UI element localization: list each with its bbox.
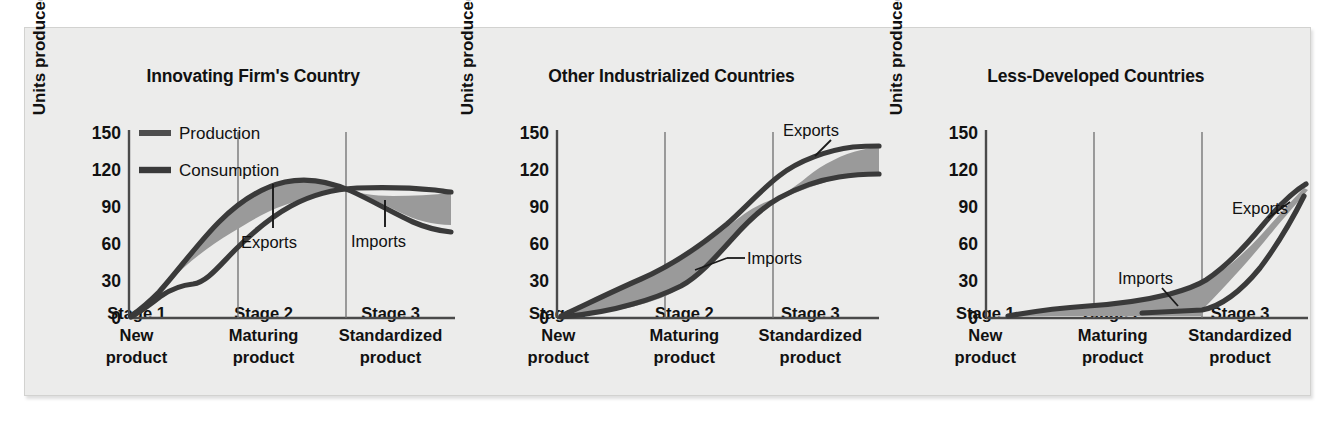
panel-container: Innovating Firm's Country Units produced… — [25, 28, 1310, 395]
ytick-90: 90 — [530, 197, 550, 217]
panel-other-industrialized-countries: Other Industrialized Countries Units pro… — [453, 28, 881, 397]
ytick-30: 30 — [102, 271, 122, 291]
legend: Production Consumption — [139, 124, 279, 180]
ytick-0: 0 — [111, 308, 121, 328]
plot-area: 150 120 90 60 30 0 — [55, 92, 455, 342]
ytick-150: 150 — [520, 123, 549, 143]
panel-title: Less-Developed Countries — [882, 66, 1310, 87]
ytick-0: 0 — [540, 308, 550, 328]
y-axis-label: Units produced — [29, 0, 51, 148]
ytick-60: 60 — [958, 234, 978, 254]
stage-line3: product — [621, 347, 747, 369]
y-axis-label: Units produced — [457, 0, 479, 148]
ytick-150: 150 — [92, 123, 121, 143]
ytick-60: 60 — [530, 234, 550, 254]
figure-frame: Innovating Firm's Country Units produced… — [24, 27, 1311, 396]
ytick-120: 120 — [92, 160, 121, 180]
stage-line3: product — [200, 347, 327, 369]
ytick-120: 120 — [520, 160, 549, 180]
ytick-60: 60 — [102, 234, 122, 254]
ytick-30: 30 — [530, 271, 550, 291]
panel-less-developed-countries: Less-Developed Countries Units produced … — [882, 28, 1310, 397]
ytick-30: 30 — [958, 271, 978, 291]
panel-innovating-firms-country: Innovating Firm's Country Units produced… — [25, 28, 453, 397]
exports-annotation: Exports — [783, 121, 839, 139]
ytick-90: 90 — [958, 197, 978, 217]
stage-line3: product — [73, 347, 200, 369]
stage-line3: product — [495, 347, 621, 369]
ytick-120: 120 — [948, 160, 977, 180]
y-axis-label: Units produced — [886, 0, 908, 148]
stage-line3: product — [327, 347, 454, 369]
panel-title: Other Industrialized Countries — [453, 66, 885, 87]
legend-label-production: Production — [179, 124, 260, 143]
plot-area: 150 120 90 60 30 0 — [483, 92, 883, 342]
legend-label-consumption: Consumption — [179, 161, 279, 180]
ytick-90: 90 — [102, 197, 122, 217]
imports-annotation: Imports — [351, 232, 406, 250]
plot-area: 150 120 90 60 30 0 — [912, 92, 1312, 342]
imports-annotation: Imports — [1118, 269, 1173, 287]
stage-line3: product — [922, 347, 1049, 369]
imports-annotation: Imports — [747, 249, 802, 267]
stage-line3: product — [747, 347, 873, 369]
exports-annotation: Exports — [241, 233, 297, 251]
stage-line3: product — [1049, 347, 1176, 369]
panel-title: Innovating Firm's Country — [25, 66, 467, 87]
stage-line3: product — [1176, 347, 1303, 369]
ytick-0: 0 — [968, 308, 978, 328]
exports-annotation: Exports — [1232, 199, 1288, 217]
ytick-150: 150 — [948, 123, 977, 143]
